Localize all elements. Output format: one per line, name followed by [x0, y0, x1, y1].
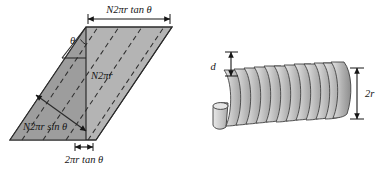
label-bottom-offset: 2πr tan θ: [65, 154, 103, 165]
label-vertical-height: N2πr: [90, 70, 114, 81]
parallelogram-group: N2πr tan θ N2πr N2πr sin θ 2πr tan θ θ: [10, 4, 172, 165]
figure-canvas: N2πr tan θ N2πr N2πr sin θ 2πr tan θ θ: [0, 0, 376, 170]
figure-root: N2πr tan θ N2πr N2πr sin θ 2πr tan θ θ: [0, 0, 376, 170]
label-angle-theta: θ: [70, 35, 75, 46]
label-diameter-2r: 2r: [365, 88, 375, 99]
helix-group: d 2r: [210, 52, 375, 129]
wire-cut-end-ellipse: [213, 103, 228, 110]
label-diagonal: N2πr sin θ: [22, 121, 67, 132]
label-pitch-d: d: [210, 61, 216, 72]
coil-set: [224, 62, 351, 126]
label-top-width: N2πr tan θ: [105, 4, 151, 15]
